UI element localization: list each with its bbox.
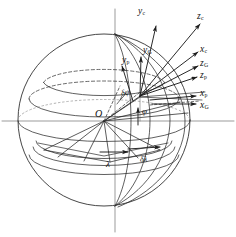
axis-label-z-G: zG [200, 59, 208, 69]
axis-label-y-p: yp [122, 56, 130, 66]
angle-label-delta-lambda: δλ [140, 156, 147, 164]
angle-label-lambda: λ [106, 160, 110, 169]
angle-label-delta-phi: δφ [120, 88, 130, 98]
figure-canvas: yc zc xc yG zG zp yp xp xG O φ δφ λ δλ [0, 0, 236, 237]
angle-label-phi: φ [142, 107, 147, 116]
axis-label-x-p: xp [200, 89, 208, 99]
axis-label-x-c: xc [200, 45, 207, 55]
axis-label-z-p: zp [200, 71, 207, 81]
axis-label-x-G: xG [200, 101, 209, 111]
origin-label: O [95, 109, 102, 119]
axis-label-y-c: yc [138, 7, 145, 17]
axis-label-z-c: zc [197, 12, 204, 22]
axis-label-y-G: yG [143, 46, 152, 56]
sphere-diagram-graphics [0, 0, 236, 237]
